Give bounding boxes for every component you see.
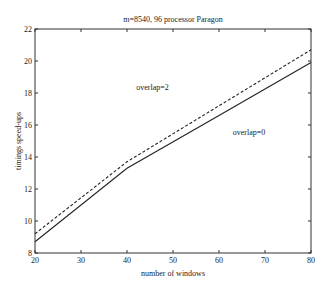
chart-title: m=8540, 96 processor Paragon	[123, 15, 223, 24]
y-tick-label: 10	[24, 217, 32, 226]
y-tick-label: 12	[24, 185, 32, 194]
annotations: overlap=2overlap=0	[136, 83, 265, 137]
x-tick-label: 20	[31, 256, 39, 265]
x-axis-ticks: 20304050607080	[31, 29, 315, 265]
y-tick-label: 14	[24, 153, 32, 162]
x-axis-label: number of windows	[141, 269, 205, 278]
x-tick-label: 40	[123, 256, 131, 265]
annotation-label: overlap=0	[233, 128, 265, 137]
y-tick-label: 20	[24, 57, 32, 66]
annotation-label: overlap=2	[136, 83, 169, 92]
y-axis-ticks: 810121416182022	[24, 25, 311, 258]
x-tick-label: 30	[77, 256, 85, 265]
chart: m=8540, 96 processor Paragon 20304050607…	[0, 0, 331, 289]
x-tick-label: 60	[215, 256, 223, 265]
y-tick-label: 16	[24, 121, 32, 130]
x-tick-label: 80	[307, 256, 315, 265]
y-tick-label: 8	[28, 249, 32, 258]
series-lines	[35, 50, 311, 242]
y-tick-label: 22	[24, 25, 32, 34]
series-overlap-0	[35, 63, 311, 242]
y-tick-label: 18	[24, 89, 32, 98]
x-tick-label: 70	[261, 256, 269, 265]
axes-box	[35, 29, 311, 253]
y-axis-label: timings speed-ups	[14, 112, 23, 170]
x-tick-label: 50	[169, 256, 177, 265]
